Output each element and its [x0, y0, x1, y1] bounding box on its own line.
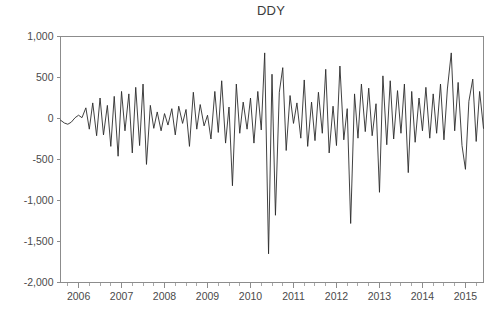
chart-plot-svg: 1,0005000-500-1,000-1,500-2,000 20062007… — [0, 0, 502, 326]
y-tick-label: 500 — [36, 71, 54, 83]
x-tick-label: 2011 — [282, 290, 305, 302]
chart-container: DDY 1,0005000-500-1,000-1,500-2,000 2006… — [0, 0, 502, 326]
y-tick-label: 0 — [48, 112, 54, 124]
x-tick-label: 2012 — [325, 290, 349, 302]
y-axis-tick-labels: 1,0005000-500-1,000-1,500-2,000 — [24, 30, 54, 288]
series-line-ddy — [61, 53, 484, 254]
y-tick-label: -500 — [32, 153, 53, 165]
x-tick-label: 2013 — [368, 290, 392, 302]
x-tick-label: 2007 — [110, 290, 134, 302]
data-series-group — [61, 53, 484, 254]
y-tick-label: -2,000 — [24, 276, 54, 288]
x-tick-label: 2008 — [153, 290, 177, 302]
x-axis-tick-labels: 2006200720082009201020112012201320142015 — [67, 290, 477, 302]
y-tick-label: -1,000 — [24, 194, 54, 206]
x-tick-label: 2015 — [454, 290, 478, 302]
x-tick-label: 2010 — [239, 290, 263, 302]
x-tick-label: 2009 — [196, 290, 220, 302]
y-tick-label: -1,500 — [24, 235, 54, 247]
plot-axes — [61, 37, 484, 283]
y-tick-label: 1,000 — [27, 30, 53, 42]
x-tick-label: 2006 — [67, 290, 91, 302]
x-tick-label: 2014 — [411, 290, 435, 302]
